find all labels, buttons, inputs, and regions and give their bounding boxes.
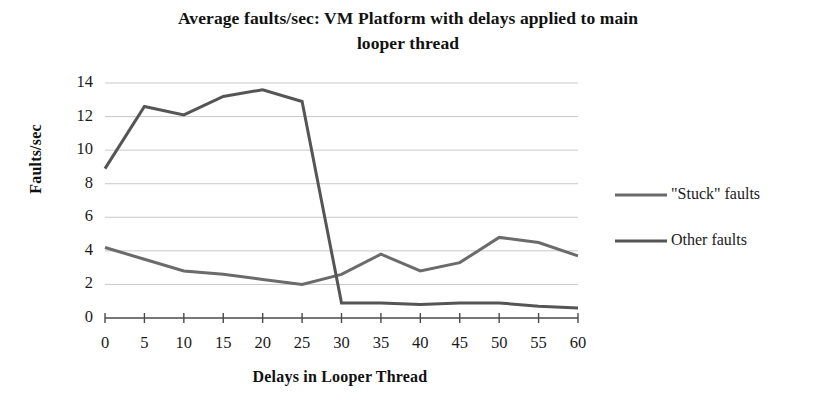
x-axis-tick-label: 10	[164, 335, 204, 352]
chart-figure: Average faults/sec: VM Platform with del…	[0, 0, 816, 402]
x-axis-tick-label: 15	[203, 335, 243, 352]
x-axis-tick-label: 50	[479, 335, 519, 352]
y-axis-tick-label: 10	[53, 141, 93, 158]
y-axis-tick-label: 4	[53, 242, 93, 259]
x-axis-tick-label: 0	[85, 335, 125, 352]
legend-swatch	[615, 190, 667, 200]
y-axis-tick-label: 8	[53, 175, 93, 192]
legend-swatch	[615, 236, 667, 246]
x-axis-tick-label: 45	[440, 335, 480, 352]
x-axis-tick-label: 60	[558, 335, 598, 352]
legend-label: Other faults	[671, 232, 747, 248]
x-axis-tick-label: 35	[361, 335, 401, 352]
x-axis-tick-label: 20	[243, 335, 283, 352]
y-axis-tick-label: 2	[53, 275, 93, 292]
x-axis-tick-label: 25	[282, 335, 322, 352]
x-axis-tick-label: 40	[400, 335, 440, 352]
y-axis-tick-label: 12	[53, 108, 93, 125]
y-axis-tick-label: 14	[53, 74, 93, 91]
series-line-1	[105, 237, 578, 284]
legend-label: "Stuck" faults	[671, 186, 760, 202]
y-axis-tick-label: 6	[53, 208, 93, 225]
x-axis-tick-label: 55	[519, 335, 559, 352]
y-axis-tick-label: 0	[53, 309, 93, 326]
x-axis-tick-label: 30	[322, 335, 362, 352]
x-axis-tick-label: 5	[124, 335, 164, 352]
